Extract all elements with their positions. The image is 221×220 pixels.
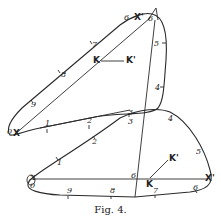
upper-apex-6-label: 6 — [148, 15, 153, 23]
vertical-axis-line — [135, 20, 155, 197]
apex-line-b — [156, 8, 158, 20]
lower-loop-curve — [28, 110, 211, 197]
upper-point-2-label: 2 — [87, 117, 92, 125]
upper-point-6-label: 6 — [124, 14, 129, 22]
figure-4: 6 X' 6 7 8 9 0 X K K' 5 4 1 2 3 3 2 1 4 … — [0, 0, 221, 220]
lower-k-prime-label: K' — [169, 154, 179, 163]
upper-k-label: K — [93, 56, 100, 65]
upper-inner-branch — [40, 110, 130, 128]
upper-point-8-label: 8 — [61, 71, 66, 79]
upper-point-1-label: 1 — [45, 120, 50, 128]
upper-point-5-label: 5 — [154, 40, 159, 48]
lower-k-label: K — [146, 180, 153, 189]
upper-x-prime-label: X' — [134, 13, 144, 22]
lower-point-2-label: 2 — [92, 138, 97, 146]
upper-point-4-label: 4 — [155, 84, 160, 92]
upper-point-3-label: 3 — [128, 109, 133, 117]
upper-point-9-label: 9 — [31, 101, 36, 109]
upper-point-7-label: 7 — [92, 41, 97, 49]
upper-x-label: X — [13, 129, 20, 138]
lower-point-9-label: 9 — [67, 187, 72, 195]
lower-x-prime-label: X' — [205, 174, 215, 183]
lower-mid-6-label: 6 — [131, 172, 136, 180]
lower-point-8-label: 8 — [110, 187, 115, 195]
upper-k-prime-label: K' — [126, 56, 136, 65]
lower-point-5-label: 5 — [196, 148, 201, 156]
lower-k-kprime-line — [150, 160, 168, 178]
figure-caption: Fig. 4. — [0, 204, 221, 215]
lower-point-6-label: 6 — [193, 184, 198, 192]
lower-point-1-label: 1 — [57, 159, 62, 167]
lower-point-7-label: 7 — [153, 187, 158, 195]
upper-point-0-label: 0 — [7, 128, 12, 136]
lower-origin-label: 0 — [30, 182, 35, 190]
lower-point-4-label: 4 — [168, 115, 173, 123]
lower-point-3-label: 3 — [128, 118, 133, 126]
